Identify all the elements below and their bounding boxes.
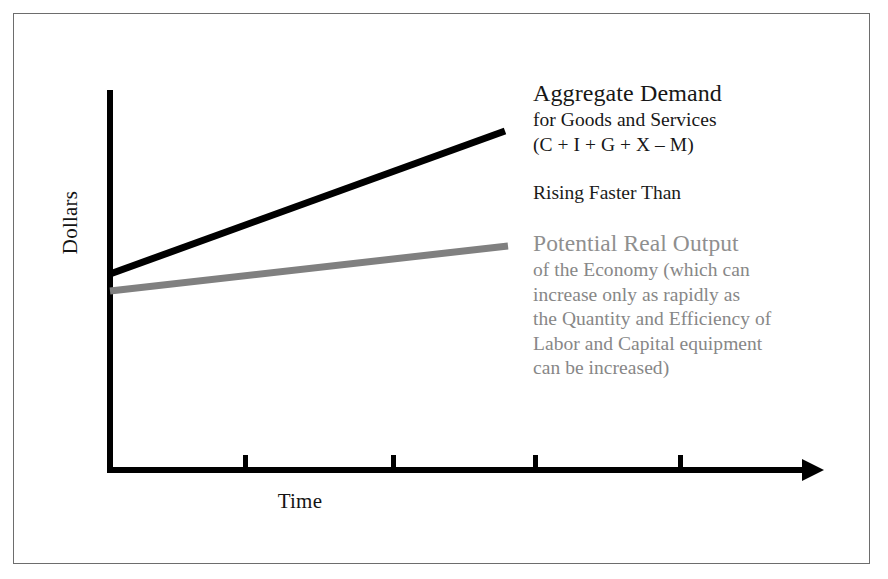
annotation-potential-output-line4: the Quantity and Efficiency of [533, 307, 873, 332]
annotation-potential-output-line3: increase only as rapidly as [533, 283, 873, 308]
annotation-aggregate-demand-heading: Aggregate Demand [533, 78, 873, 108]
annotation-potential-output: Potential Real Output of the Economy (wh… [533, 228, 873, 381]
annotation-potential-output-body: of the Economy (which can increase only … [533, 258, 873, 381]
annotation-potential-output-line5: Labor and Capital equipment [533, 332, 873, 357]
annotation-aggregate-demand: Aggregate Demand for Goods and Services … [533, 78, 873, 157]
figure-canvas: Dollars Time Aggregate Demand for Goods … [0, 0, 888, 579]
x-axis-title: Time [230, 489, 370, 514]
annotation-potential-output-heading: Potential Real Output [533, 228, 873, 258]
annotation-potential-output-line6: can be increased) [533, 356, 873, 381]
annotation-aggregate-demand-body: for Goods and Services (C + I + G + X – … [533, 108, 873, 157]
annotation-potential-output-line2: of the Economy (which can [533, 258, 873, 283]
annotation-comparison-text: Rising Faster Than [533, 180, 873, 205]
annotation-aggregate-demand-line2: for Goods and Services [533, 108, 873, 133]
y-axis-title: Dollars [58, 191, 83, 255]
annotation-aggregate-demand-line3: (C + I + G + X – M) [533, 133, 873, 158]
